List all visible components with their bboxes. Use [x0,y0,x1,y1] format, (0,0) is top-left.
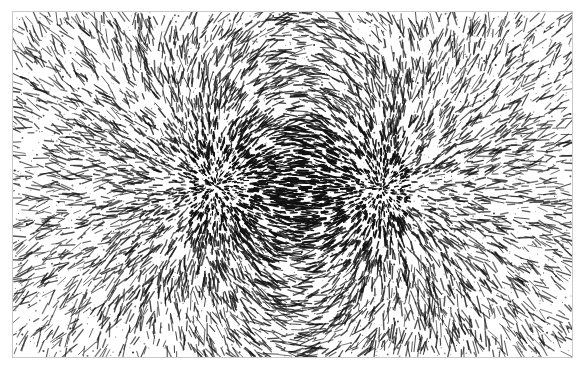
figure-root: Magnetic dipole field visualized with ir… [0,0,587,375]
magnetic-field-canvas [13,12,572,357]
field-frame [12,11,573,358]
